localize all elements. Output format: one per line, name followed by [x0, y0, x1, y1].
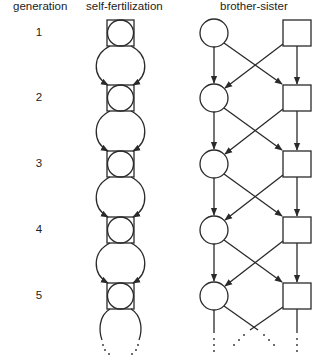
female-circle-icon-1 [200, 19, 228, 47]
brother-sister-column [200, 19, 311, 333]
self-loop-3 [96, 177, 110, 217]
hermaphrodite-icon-1 [107, 20, 134, 46]
hermaphrodite-icon-2 [107, 85, 134, 111]
self-loop-continuation [100, 309, 110, 340]
hermaphrodite-icon-3 [107, 151, 134, 177]
male-square-icon-1 [283, 20, 311, 46]
self-loop-1 [96, 46, 110, 85]
female-circle-icon-5 [200, 282, 228, 310]
male-square-icon-5 [283, 283, 311, 309]
male-square-icon-3 [283, 151, 311, 177]
female-circle-icon-3 [200, 150, 228, 178]
self-fertilization-column [96, 20, 145, 340]
male-square-icon-2 [283, 85, 311, 111]
continuation-dots-self [102, 344, 139, 355]
hermaphrodite-icon-4 [107, 217, 134, 243]
male-square-icon-4 [283, 217, 311, 243]
self-loop-4 [96, 243, 110, 283]
hermaphrodite-icon-5 [107, 283, 134, 309]
female-circle-icon-2 [200, 84, 228, 112]
female-circle-icon-4 [200, 216, 228, 244]
continuation-dots-brother-sister [213, 334, 298, 352]
mating-diagram [0, 0, 318, 361]
self-loop-2 [96, 111, 110, 151]
